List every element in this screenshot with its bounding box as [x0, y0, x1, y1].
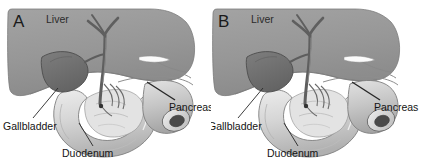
panel-b-illustration — [211, 0, 422, 168]
label-pancreas-a: Pancreas — [169, 102, 211, 113]
panel-a: A Liver Pancreas Gallbladder Duodenum — [0, 0, 211, 168]
label-liver-b: Liver — [251, 14, 274, 25]
panel-letter-b: B — [218, 12, 229, 32]
label-liver-a: Liver — [46, 14, 69, 25]
panel-a-illustration — [0, 0, 211, 168]
two-panel-anatomy-figure: A Liver Pancreas Gallbladder Duodenum — [0, 0, 422, 168]
label-pancreas-b: Pancreas — [374, 102, 418, 113]
ampulla-of-vater — [304, 104, 308, 108]
label-gallbladder-a: Gallbladder — [3, 121, 57, 132]
label-duodenum-b: Duodenum — [267, 148, 318, 159]
panel-b: B Liver Pancreas Gallbladder Duodenum — [211, 0, 422, 168]
ampulla-of-vater — [99, 104, 103, 108]
label-gallbladder-b: Gallbladder — [211, 121, 262, 132]
duodenal-papilla-region — [290, 89, 349, 137]
panel-letter-a: A — [13, 12, 24, 32]
duodenal-papilla-region — [85, 89, 144, 137]
label-duodenum-a: Duodenum — [62, 148, 113, 159]
